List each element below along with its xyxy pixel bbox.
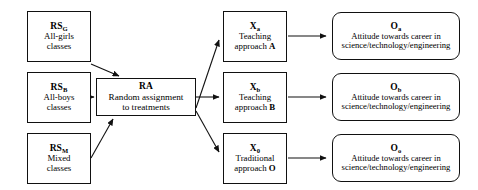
node-treatment-control[interactable]: X0 Traditional approach O: [223, 133, 287, 184]
node-rs-girls[interactable]: RSG All-girls classes: [27, 11, 91, 62]
node-random-assignment-desc: Random assignment to treatments: [109, 92, 184, 113]
edge-ra-to-x-o: [196, 111, 219, 152]
node-rs-boys-desc: All-boys classes: [44, 93, 75, 113]
node-rs-girls-desc: All-girls classes: [44, 32, 74, 52]
node-treatment-a[interactable]: Xa Teaching approach A: [223, 11, 287, 62]
node-outcome-a[interactable]: Oa Attitude towards career in science/te…: [332, 12, 460, 60]
node-treatment-b-desc: Teaching approach B: [235, 93, 275, 113]
edge-rs-g-to-ra: [91, 64, 119, 76]
node-rs-mixed[interactable]: RSM Mixed classes: [27, 133, 91, 184]
node-treatment-control-desc: Traditional approach O: [234, 154, 275, 174]
edge-ra-to-x-a: [196, 40, 219, 108]
node-random-assignment-code: RA: [139, 81, 153, 92]
node-random-assignment[interactable]: RA Random assignment to treatments: [96, 78, 196, 116]
node-outcome-control[interactable]: Oo Attitude towards career in science/te…: [332, 134, 460, 182]
node-rs-mixed-desc: Mixed classes: [47, 154, 71, 174]
node-outcome-a-desc: Attitude towards career in science/techn…: [342, 32, 451, 51]
node-outcome-b[interactable]: Ob Attitude towards career in science/te…: [332, 73, 460, 121]
node-treatment-b[interactable]: Xb Teaching approach B: [223, 72, 287, 123]
node-outcome-control-desc: Attitude towards career in science/techn…: [342, 154, 451, 173]
diagram-canvas: RSG All-girls classes RSB All-boys class…: [0, 0, 478, 190]
node-rs-boys[interactable]: RSB All-boys classes: [27, 72, 91, 123]
edge-rs-m-to-ra: [91, 119, 113, 158]
node-treatment-a-desc: Teaching approach A: [235, 32, 276, 52]
node-outcome-b-desc: Attitude towards career in science/techn…: [342, 93, 451, 112]
